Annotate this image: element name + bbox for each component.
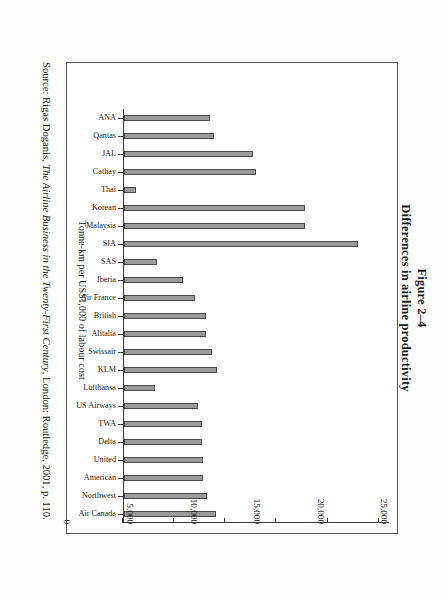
category-label-slot: ANA: [67, 109, 123, 127]
value-tick-label: 15,000: [252, 499, 262, 524]
bar-slot: [124, 163, 389, 181]
bar: [124, 457, 204, 463]
category-label-slot: Lufthansa: [67, 379, 123, 397]
bar-slot: [124, 253, 389, 271]
category-label-slot: United: [67, 451, 123, 469]
value-tick-label: 0: [62, 519, 72, 524]
bar: [124, 259, 157, 265]
figure-title-block: Figure 2–4 Differences in airline produc…: [398, 0, 430, 596]
category-label: Alitalia: [91, 330, 116, 338]
category-label: TWA: [98, 420, 116, 428]
category-label: British: [94, 312, 116, 320]
category-label-slot: Malaysia: [67, 217, 123, 235]
bar-slot: [124, 307, 389, 325]
bar-slot: [124, 127, 389, 145]
category-label-slot: US Airways: [67, 397, 123, 415]
category-label-slot: Cathay: [67, 163, 123, 181]
bar: [124, 205, 305, 211]
category-label-slot: Northwest: [67, 487, 123, 505]
bar-slot: [124, 109, 389, 127]
category-label-slot: Alitalia: [67, 325, 123, 343]
page-title: Differences in airline productivity: [398, 0, 414, 596]
bar: [124, 223, 305, 229]
category-label-slot: British: [67, 307, 123, 325]
category-label: SIA: [103, 240, 116, 248]
bar-slot: [124, 343, 389, 361]
bar-slot: [124, 379, 389, 397]
bar: [124, 475, 204, 481]
bar-slot: [124, 217, 389, 235]
bar: [124, 511, 216, 517]
category-label: Cathay: [93, 168, 116, 176]
bar-slot: [124, 433, 389, 451]
category-label: Malaysia: [86, 222, 116, 230]
category-label-slot: Qantas: [67, 127, 123, 145]
category-label-slot: American: [67, 469, 123, 487]
value-tick: [224, 518, 225, 523]
category-label-slot: JAL: [67, 145, 123, 163]
value-tick: [173, 518, 174, 523]
value-tick-label: 20,000: [316, 499, 326, 524]
category-label-slot: SIA: [67, 235, 123, 253]
category-label-slot: Delta: [67, 433, 123, 451]
source-note: Source: Rigas Doganis, The Airline Busin…: [39, 62, 54, 542]
category-label: Thai: [101, 186, 116, 194]
category-label: United: [94, 456, 116, 464]
bar-series: [124, 109, 389, 523]
value-tick: [275, 518, 276, 523]
value-tick: [327, 518, 328, 523]
bar: [124, 349, 212, 355]
value-axis-title-text: Tonne-km per US$1,000 of labour cost: [77, 220, 88, 379]
bar: [124, 367, 217, 373]
category-label-slot: KLM: [67, 361, 123, 379]
category-axis-labels: ANAQantasJALCathayThaiKoreanMalaysiaSIAS…: [67, 109, 123, 523]
bar-slot: [124, 397, 389, 415]
category-axis-line: [123, 109, 124, 523]
bar: [124, 403, 198, 409]
bar-slot: [124, 289, 389, 307]
category-label: Lufthansa: [83, 384, 116, 392]
bar-slot: [124, 415, 389, 433]
value-tick-label: 25,000: [379, 499, 389, 524]
figure-number: Figure 2–4: [414, 0, 430, 596]
bar: [124, 115, 210, 121]
plot-area: [123, 109, 389, 523]
bar: [124, 313, 206, 319]
category-label-slot: Air France: [67, 289, 123, 307]
category-label: American: [84, 474, 116, 482]
bar-slot: [124, 325, 389, 343]
bar: [124, 295, 195, 301]
bar: [124, 133, 214, 139]
category-label: JAL: [102, 150, 116, 158]
value-tick-label: 5,000: [125, 503, 135, 524]
bar-slot: [124, 145, 389, 163]
value-tick-label: 10,000: [189, 499, 199, 524]
bar-slot: [124, 235, 389, 253]
category-label: Iberia: [97, 276, 116, 284]
category-label: ANA: [98, 114, 116, 122]
bar: [124, 169, 257, 175]
category-label: Delta: [98, 438, 116, 446]
bar: [124, 439, 202, 445]
category-label-slot: Swissair: [67, 343, 123, 361]
chart-frame: ANAQantasJALCathayThaiKoreanMalaysiaSIAS…: [66, 62, 398, 534]
category-label-slot: Iberia: [67, 271, 123, 289]
bar-slot: [124, 271, 389, 289]
bar: [124, 421, 202, 427]
bar: [124, 187, 136, 193]
bar: [124, 277, 183, 283]
page-canvas: Figure 2–4 Differences in airline produc…: [0, 0, 446, 596]
value-tick: [122, 518, 123, 523]
source-suffix: , London: Routledge, 2001, p. 110.: [41, 372, 52, 520]
bar-slot: [124, 469, 389, 487]
category-label-slot: Korean: [67, 199, 123, 217]
bar: [124, 241, 358, 247]
source-book-title: The Airline Business in the Twenty-First…: [41, 164, 52, 371]
bar: [124, 331, 206, 337]
value-axis-title: Tonne-km per US$1,000 of labour cost: [77, 65, 88, 535]
bar-slot: [124, 451, 389, 469]
bar: [124, 151, 253, 157]
category-label-slot: SAS: [67, 253, 123, 271]
category-label: Qantas: [93, 132, 116, 140]
category-label-slot: Thai: [67, 181, 123, 199]
